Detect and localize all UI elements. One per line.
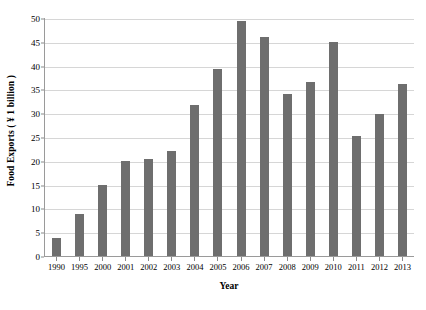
x-tick-slot <box>183 257 206 261</box>
x-tick-slot <box>276 257 299 261</box>
x-axis-tick-mark <box>56 257 57 261</box>
x-axis-tick-mark <box>333 257 334 261</box>
x-axis-tick-mark <box>402 257 403 261</box>
bar-slot <box>114 18 137 256</box>
x-axis-tick-mark <box>356 257 357 261</box>
x-tick-slot <box>253 257 276 261</box>
y-axis-tick-label: 5 <box>36 228 41 238</box>
bar-slot <box>368 18 391 256</box>
x-axis-tick-label: 1990 <box>48 262 65 276</box>
y-axis-tick-label: 30 <box>31 109 40 119</box>
x-axis-tick-label: 2007 <box>256 262 273 276</box>
x-tick-slot <box>160 257 183 261</box>
x-tick-slot <box>45 257 68 261</box>
x-axis-tick-label: 1995 <box>71 262 88 276</box>
bar[interactable] <box>167 151 176 256</box>
bar[interactable] <box>121 161 130 256</box>
y-axis-tick-label: 35 <box>31 85 40 95</box>
x-axis-tick-label: 2011 <box>348 262 365 276</box>
x-axis-tick-mark <box>264 257 265 261</box>
bar[interactable] <box>190 105 199 256</box>
bar[interactable] <box>398 84 407 256</box>
bar[interactable] <box>75 214 84 256</box>
bar-slot <box>276 18 299 256</box>
x-tick-slot <box>322 257 345 261</box>
x-tick-slot <box>68 257 91 261</box>
x-axis-tick-mark <box>125 257 126 261</box>
x-label-slot: 1990 <box>45 262 68 276</box>
bar-slot <box>322 18 345 256</box>
x-label-slot: 2013 <box>391 262 414 276</box>
x-tick-slot <box>345 257 368 261</box>
x-label-slot: 2001 <box>114 262 137 276</box>
y-axis-tick-label: 40 <box>31 62 40 72</box>
x-label-slot: 2012 <box>368 262 391 276</box>
bar-slot <box>299 18 322 256</box>
bar-slot <box>391 18 414 256</box>
bar[interactable] <box>283 94 292 256</box>
x-axis-tick-label: 2004 <box>186 262 203 276</box>
bar-slot <box>253 18 276 256</box>
plot-area <box>44 18 414 257</box>
bar[interactable] <box>375 114 384 256</box>
bar[interactable] <box>260 37 269 256</box>
x-label-slot: 2008 <box>276 262 299 276</box>
x-label-slot: 2009 <box>299 262 322 276</box>
bar-slot <box>45 18 68 256</box>
bar-slot <box>160 18 183 256</box>
bar[interactable] <box>144 159 153 256</box>
x-tick-slot <box>114 257 137 261</box>
x-tick-slot <box>368 257 391 261</box>
x-axis-tick-label: 2002 <box>140 262 157 276</box>
x-axis-tick-label: 2001 <box>117 262 134 276</box>
bar-slot <box>230 18 253 256</box>
bar[interactable] <box>329 42 338 256</box>
bar[interactable] <box>237 21 246 256</box>
bar[interactable] <box>98 185 107 256</box>
y-axis-tick-label: 10 <box>31 204 40 214</box>
x-label-slot: 2006 <box>230 262 253 276</box>
y-axis-tick-label: 15 <box>31 181 40 191</box>
x-axis-tick-mark <box>171 257 172 261</box>
x-tick-slot <box>299 257 322 261</box>
bar[interactable] <box>52 238 61 256</box>
y-axis-title-text: Food Exports ( ¥ 1 billion ) <box>6 75 16 187</box>
bars-container <box>45 18 414 256</box>
x-axis-title: Year <box>44 281 414 291</box>
y-axis-tick-label: 20 <box>31 157 40 167</box>
x-label-slot: 2005 <box>206 262 229 276</box>
x-axis-tick-mark <box>287 257 288 261</box>
x-label-slot: 2011 <box>345 262 368 276</box>
x-axis-tick-mark <box>148 257 149 261</box>
x-axis-tick-mark <box>217 257 218 261</box>
bar[interactable] <box>306 82 315 256</box>
x-tick-slot <box>206 257 229 261</box>
x-axis-tick-mark <box>241 257 242 261</box>
x-axis-tick-label: 2005 <box>209 262 226 276</box>
x-axis-tick-label: 2006 <box>233 262 250 276</box>
bar-slot <box>206 18 229 256</box>
x-label-slot: 2004 <box>183 262 206 276</box>
y-axis-tick-label: 50 <box>31 14 40 24</box>
x-axis-tick-mark <box>79 257 80 261</box>
bar-slot <box>137 18 160 256</box>
x-axis-tick-label: 2008 <box>279 262 296 276</box>
bar[interactable] <box>213 69 222 256</box>
bar-slot <box>345 18 368 256</box>
x-axis-tick-label: 2013 <box>394 262 411 276</box>
bar[interactable] <box>352 136 361 256</box>
x-label-slot: 2003 <box>160 262 183 276</box>
y-axis-tick-label: 45 <box>31 38 40 48</box>
y-axis-title: Food Exports ( ¥ 1 billion ) <box>0 0 22 262</box>
x-axis-tick-labels: 1990199520002001200220032004200520062007… <box>45 262 414 276</box>
x-label-slot: 1995 <box>68 262 91 276</box>
bar-slot <box>91 18 114 256</box>
x-tick-slot <box>91 257 114 261</box>
x-axis-tick-label: 2009 <box>302 262 319 276</box>
x-axis-tick-label: 2003 <box>163 262 180 276</box>
y-axis-tick-label: 0 <box>36 252 41 262</box>
x-axis-tick-mark <box>102 257 103 261</box>
x-axis-tick-mark <box>379 257 380 261</box>
x-label-slot: 2000 <box>91 262 114 276</box>
x-tick-slot <box>391 257 414 261</box>
